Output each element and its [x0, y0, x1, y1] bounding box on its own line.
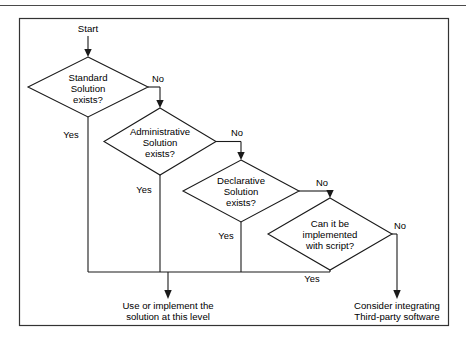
- decision-standard-line2: Solution: [71, 83, 106, 94]
- decision-administrative-line3: exists?: [145, 148, 175, 159]
- administrative-no-label: No: [231, 127, 243, 138]
- standard-yes-label: Yes: [63, 129, 79, 140]
- decision-declarative-line2: Solution: [224, 186, 259, 197]
- convergence-to-terminal-arrowhead: [164, 290, 171, 299]
- decision-declarative-line1: Declarative: [217, 175, 265, 186]
- terminal-third-party-line1: Consider integrating: [354, 300, 440, 311]
- declarative-yes-label: Yes: [218, 230, 234, 241]
- terminal-third-party-line2: Third-party software: [354, 311, 439, 322]
- decision-standard-line3: exists?: [73, 94, 103, 105]
- decision-script-line1: Can it be: [311, 218, 349, 229]
- standard-no-label: No: [152, 73, 164, 84]
- start-label: Start: [78, 23, 99, 34]
- decision-standard-line1: Standard: [69, 72, 108, 83]
- terminal-use-implement-line1: Use or implement the: [122, 300, 213, 311]
- terminal-use-implement-line2: solution at this level: [126, 311, 210, 322]
- administrative-yes-label: Yes: [136, 184, 152, 195]
- decision-administrative-line1: Administrative: [130, 126, 190, 137]
- flowchart-page: Start Standard Solution exists? No Yes A…: [0, 0, 466, 349]
- decision-administrative-line2: Solution: [143, 137, 178, 148]
- declarative-no-arrowhead: [326, 190, 333, 198]
- start-to-standard-arrowhead: [84, 49, 91, 57]
- script-no-label: No: [394, 220, 406, 231]
- decision-declarative-line3: exists?: [226, 197, 256, 208]
- flowchart-canvas: Start Standard Solution exists? No Yes A…: [0, 0, 466, 349]
- script-no-arrowhead: [393, 290, 400, 299]
- script-yes-label: Yes: [304, 273, 320, 284]
- declarative-no-label: No: [316, 177, 328, 188]
- administrative-no-arrowhead: [237, 152, 244, 160]
- standard-no-arrowhead: [156, 100, 163, 108]
- decision-script-line2: implemented: [303, 229, 358, 240]
- decision-script-line3: with script?: [305, 240, 354, 251]
